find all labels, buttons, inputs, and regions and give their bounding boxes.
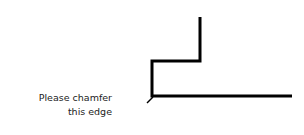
- annotation-line-2: this edge: [68, 105, 112, 119]
- edge-profile-drawing: [0, 0, 304, 135]
- annotation-line-1: Please chamfer: [39, 91, 112, 105]
- diagram-canvas: Please chamfer this edge: [0, 0, 304, 135]
- edge-profile-outline: [152, 17, 292, 96]
- chamfer-leader-line: [147, 97, 153, 103]
